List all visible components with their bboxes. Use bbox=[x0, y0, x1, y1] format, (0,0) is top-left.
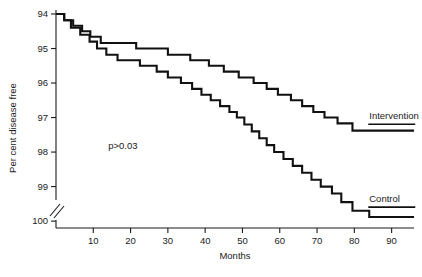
series-label-intervention: Intervention bbox=[369, 110, 419, 121]
x-tick-label: 20 bbox=[125, 235, 136, 246]
x-tick-label: 30 bbox=[163, 235, 174, 246]
y-tick-label: 97 bbox=[37, 112, 48, 123]
y-axis-tick-labels: 100999897969594 bbox=[32, 8, 48, 226]
x-tick-label: 50 bbox=[237, 235, 248, 246]
x-axis-ticks bbox=[93, 228, 391, 233]
x-axis-tick-labels: 102030405060708090 bbox=[88, 235, 397, 246]
x-tick-label: 90 bbox=[386, 235, 397, 246]
y-axis-break-icon bbox=[50, 204, 64, 218]
y-axis-title: Per cent disease free bbox=[7, 83, 18, 173]
y-tick-label: 94 bbox=[37, 8, 48, 19]
chart-canvas: 100999897969594 102030405060708090 Inter… bbox=[0, 0, 422, 277]
x-tick-label: 40 bbox=[200, 235, 211, 246]
y-tick-label: 96 bbox=[37, 77, 48, 88]
x-axis-title: Months bbox=[219, 250, 250, 261]
x-tick-label: 70 bbox=[312, 235, 323, 246]
y-tick-label: 100 bbox=[32, 215, 48, 226]
y-tick-label: 99 bbox=[37, 181, 48, 192]
x-tick-label: 10 bbox=[88, 235, 99, 246]
curve-intervention bbox=[56, 14, 414, 131]
y-axis-ticks bbox=[51, 14, 56, 221]
curve-control bbox=[56, 14, 414, 217]
survival-chart: 100999897969594 102030405060708090 Inter… bbox=[0, 0, 422, 277]
pvalue-annotation: p>0.03 bbox=[108, 140, 137, 151]
y-tick-label: 95 bbox=[37, 43, 48, 54]
y-tick-label: 98 bbox=[37, 146, 48, 157]
series-label-control: Control bbox=[369, 193, 400, 204]
x-tick-label: 80 bbox=[349, 235, 360, 246]
x-tick-label: 60 bbox=[274, 235, 285, 246]
